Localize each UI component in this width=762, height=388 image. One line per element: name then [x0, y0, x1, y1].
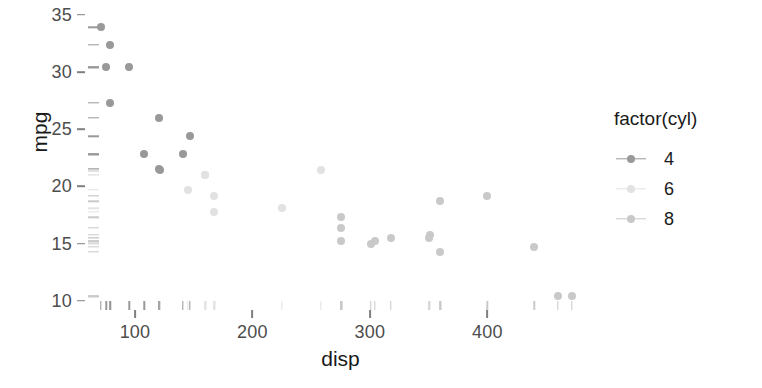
data-point	[106, 41, 114, 49]
rug-tick-y	[88, 102, 99, 103]
chart-root: 101520253035 100200300400 disp mpg facto…	[0, 0, 762, 388]
data-point	[337, 224, 345, 232]
legend-point-marker	[627, 155, 635, 163]
rug-tick-x	[557, 301, 558, 310]
rug-tick-y	[88, 201, 99, 202]
rug-tick-x	[129, 301, 130, 310]
data-point	[97, 23, 105, 31]
rug-tick-y	[88, 217, 99, 218]
x-tick-label: 200	[237, 322, 268, 343]
data-point	[337, 237, 345, 245]
legend-item-4[interactable]: 4	[614, 144, 754, 174]
data-point	[155, 114, 163, 122]
legend-item-label: 8	[664, 209, 674, 230]
rug-tick-x	[440, 301, 441, 310]
rug-tick-x	[281, 301, 282, 310]
rug-tick-y	[88, 296, 99, 297]
x-tick-label: 400	[472, 322, 503, 343]
rug-tick-y	[88, 227, 99, 228]
rug-tick-y	[88, 117, 99, 118]
rug-tick-y	[88, 237, 99, 238]
y-axis-label: mpg	[28, 72, 52, 192]
rug-tick-y	[88, 154, 99, 155]
data-point	[337, 213, 345, 221]
data-point	[554, 292, 562, 300]
y-tick-label: 25	[52, 119, 72, 140]
y-tick-mark	[77, 243, 85, 245]
y-tick-mark	[77, 300, 85, 302]
rug-tick-x	[214, 301, 215, 310]
data-point	[568, 292, 576, 300]
y-tick-mark	[77, 186, 85, 188]
data-point	[106, 99, 114, 107]
rug-tick-x	[182, 301, 183, 310]
rug-tick-x	[159, 301, 160, 310]
rug-tick-x	[487, 301, 488, 310]
legend-item-label: 6	[664, 179, 674, 200]
legend-key-swatch	[614, 206, 648, 232]
y-tick-mark	[77, 14, 85, 16]
rug-tick-y	[88, 189, 99, 190]
y-tick-label: 35	[52, 4, 72, 25]
data-point	[436, 248, 444, 256]
data-point	[201, 171, 209, 179]
rug-tick-x	[144, 301, 145, 310]
rug-tick-x	[571, 301, 572, 310]
rug-tick-x	[534, 301, 535, 310]
rug-tick-y	[88, 207, 99, 208]
rug-tick-x	[374, 301, 375, 310]
data-point	[179, 150, 187, 158]
x-tick-mark	[134, 310, 136, 318]
data-point	[140, 150, 148, 158]
legend-key-swatch	[614, 146, 648, 172]
data-point	[483, 192, 491, 200]
rug-tick-x	[106, 301, 107, 310]
rug-tick-x	[429, 301, 430, 310]
rug-tick-y	[88, 243, 99, 244]
y-tick-label: 15	[52, 233, 72, 254]
data-point	[184, 186, 192, 194]
x-tick-mark	[252, 310, 254, 318]
data-point	[426, 231, 434, 239]
plot-panel	[88, 8, 593, 310]
data-point	[125, 63, 133, 71]
data-point	[210, 192, 218, 200]
legend-items: 468	[614, 144, 754, 234]
x-tick-label: 100	[120, 322, 151, 343]
data-point	[210, 208, 218, 216]
legend-point-marker	[627, 215, 635, 223]
legend-item-6[interactable]: 6	[614, 174, 754, 204]
data-point	[156, 166, 164, 174]
rug-tick-y	[88, 234, 99, 235]
rug-tick-x	[320, 301, 321, 310]
rug-tick-x	[100, 301, 101, 310]
y-tick-label: 20	[52, 176, 72, 197]
y-tick-mark	[77, 128, 85, 130]
rug-tick-y	[88, 195, 99, 196]
y-tick-label: 30	[52, 62, 72, 83]
rug-tick-x	[390, 301, 391, 310]
rug-tick-y	[88, 170, 99, 171]
data-point	[102, 63, 110, 71]
data-point	[186, 132, 194, 140]
rug-tick-x	[341, 301, 342, 310]
rug-tick-y	[88, 174, 99, 175]
rug-tick-y	[88, 246, 99, 247]
legend-key-swatch	[614, 176, 648, 202]
legend-item-8[interactable]: 8	[614, 204, 754, 234]
rug-tick-y	[88, 211, 99, 212]
rug-tick-y	[88, 241, 99, 242]
rug-tick-y	[88, 67, 99, 68]
rug-tick-y	[88, 44, 99, 45]
x-axis-label: disp	[88, 347, 593, 371]
rug-tick-x	[370, 301, 371, 310]
legend-point-marker	[627, 185, 635, 193]
y-tick-label: 10	[52, 290, 72, 311]
data-point	[367, 240, 375, 248]
data-point	[387, 234, 395, 242]
legend: factor(cyl) 468	[614, 108, 754, 234]
y-tick-mark	[77, 71, 85, 73]
x-tick-mark	[486, 310, 488, 318]
legend-title: factor(cyl)	[614, 108, 754, 130]
rug-tick-y	[88, 135, 99, 136]
